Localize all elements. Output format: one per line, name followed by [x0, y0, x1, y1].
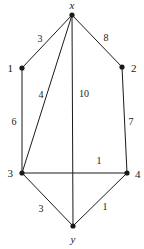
node-label-n1: 1	[8, 63, 14, 74]
edge-weight-n1-n3: 6	[12, 117, 17, 127]
graph-canvas	[0, 0, 144, 249]
graph-edge-n2-n4	[122, 67, 127, 173]
edge-weight-x-n3: 4	[39, 90, 44, 100]
graph-edge-n3-y	[22, 173, 73, 226]
graph-edge-x-n3	[22, 15, 72, 173]
graph-node-n3	[19, 170, 24, 175]
graph-edge-n4-y	[73, 173, 127, 226]
graph-edge-x-n2	[72, 15, 122, 67]
edge-weight-x-n1: 3	[38, 34, 43, 44]
graph-node-y	[70, 223, 75, 228]
edge-weight-n3-y: 3	[39, 204, 44, 214]
node-label-n4: 4	[135, 169, 141, 180]
edge-line-group	[22, 15, 127, 226]
graph-edge-x-y	[72, 15, 73, 226]
graph-node-x	[69, 12, 74, 17]
edge-weight-x-y: 10	[79, 89, 89, 99]
graph-node-n1	[19, 65, 24, 70]
graph-node-n4	[124, 170, 129, 175]
weighted-graph-figure: 3841067131x1234y	[0, 0, 144, 249]
edge-weight-n4-y: 1	[103, 202, 108, 212]
node-label-n2: 2	[131, 63, 137, 74]
node-label-x: x	[70, 0, 75, 11]
graph-node-n2	[119, 64, 124, 69]
edge-weight-x-n2: 8	[104, 33, 109, 43]
node-label-n3: 3	[8, 168, 14, 179]
graph-edge-x-n1	[22, 15, 72, 68]
node-dot-group	[19, 12, 129, 228]
node-label-y: y	[71, 234, 76, 245]
edge-weight-n3-n4: 1	[97, 156, 102, 166]
edge-weight-n2-n4: 7	[129, 117, 134, 127]
